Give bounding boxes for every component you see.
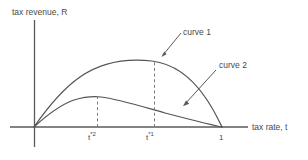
x-tick-label-t-star-2: t*2 <box>88 133 96 142</box>
tick-t-star-1-superscript: *1 <box>148 131 154 137</box>
laffer-curve-figure: tax revenue, R tax rate, t curve 1 curve… <box>0 0 308 160</box>
curve-1-path <box>34 60 222 127</box>
curve-2-label: curve 2 <box>219 60 247 70</box>
curve-1-label: curve 1 <box>183 27 211 37</box>
curve-2-path <box>34 97 222 127</box>
tick-t-star-2-superscript: *2 <box>90 131 96 137</box>
curve-1-arrow <box>161 33 181 57</box>
x-tick-label-t-star-1: t*1 <box>146 133 154 142</box>
curve-2-arrow <box>183 70 216 106</box>
x-tick-label-one: 1 <box>219 133 223 142</box>
x-axis-label: tax rate, t <box>252 122 287 132</box>
plot-canvas <box>0 0 308 160</box>
y-axis-label: tax revenue, R <box>12 7 67 17</box>
